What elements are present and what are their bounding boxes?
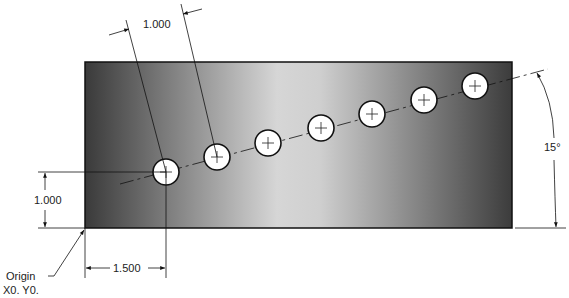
hole-4	[308, 115, 334, 141]
dim-first-hole-x: 1.500	[113, 262, 141, 274]
engineering-drawing: 1.000 1.000 1.500 15° Origin X0. Y0.	[0, 0, 569, 298]
hole-7	[462, 73, 488, 99]
plate	[85, 62, 512, 228]
hole-3	[255, 130, 281, 156]
origin-leader	[48, 230, 84, 276]
hole-5	[359, 101, 385, 127]
dim-arrow-right	[183, 9, 202, 14]
angle-arc-lower	[554, 160, 556, 227]
dim-first-hole-y: 1.000	[34, 194, 62, 206]
origin-label: Origin	[6, 270, 35, 282]
dim-angle: 15°	[544, 141, 561, 153]
dim-arrow-left	[109, 29, 129, 35]
dim-hole-spacing: 1.000	[143, 18, 171, 30]
origin-coords: X0. Y0.	[3, 284, 39, 296]
hole-6	[411, 87, 437, 113]
angle-arc	[537, 73, 554, 138]
